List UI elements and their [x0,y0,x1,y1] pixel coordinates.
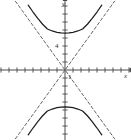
x-axis-arrow [130,68,131,73]
plot-canvas [0,0,131,140]
y-tick-label-4: 4 [55,43,59,50]
hyperbola-figure: y x 4 1 [0,0,131,140]
axes-group [0,0,131,140]
x-tick-label-1: 1 [68,74,72,81]
y-axis-label: y [62,1,65,8]
x-axis-label: x [124,73,127,80]
